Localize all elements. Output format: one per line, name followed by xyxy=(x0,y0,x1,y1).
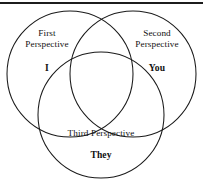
label-first-perspective-line2: Perspective xyxy=(25,39,68,49)
venn-diagram-figure: First Perspective I Second Perspective Y… xyxy=(0,0,203,183)
label-pronoun-they: They xyxy=(45,150,157,161)
label-second-perspective-line1: Second xyxy=(143,28,171,38)
label-second-perspective-line2: Perspective xyxy=(135,39,178,49)
label-second-perspective: Second Perspective xyxy=(124,28,190,50)
label-third-perspective: Third Perspective xyxy=(45,128,157,138)
label-first-perspective-line1: First xyxy=(38,28,55,38)
label-first-perspective: First Perspective xyxy=(16,28,78,50)
label-pronoun-i: I xyxy=(16,63,78,74)
label-pronoun-you: You xyxy=(124,63,190,74)
